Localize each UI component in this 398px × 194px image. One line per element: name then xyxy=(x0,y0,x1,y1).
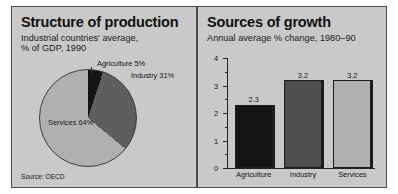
panel-structure-of-production: Structure of production Industrial count… xyxy=(11,6,197,188)
x-category-label: Services xyxy=(338,170,366,179)
panel-sources-of-growth: Sources of growth Annual average % chang… xyxy=(197,6,387,188)
x-category-label: Industry xyxy=(290,170,316,179)
y-tick-label: 4 xyxy=(214,54,218,63)
bar-chart-plot-area: 01234 2.3Agriculture3.2Industry3.2Servic… xyxy=(227,59,375,169)
y-axis xyxy=(227,59,228,169)
y-tick-major: 1 xyxy=(223,141,228,142)
bar-industry: 3.2Industry xyxy=(284,80,322,168)
y-tick-major: 2 xyxy=(223,113,228,114)
x-category-label: Agriculture xyxy=(236,170,271,179)
pie-label-industry: Industry 31% xyxy=(131,71,174,80)
page-title: Structure of production xyxy=(21,14,178,30)
y-tick-label: 2 xyxy=(214,109,218,118)
y-tick-label: 1 xyxy=(214,136,218,145)
y-tick-major: 3 xyxy=(223,86,228,87)
y-tick-minor xyxy=(225,99,228,100)
pie-label-agriculture: Agriculture 5% xyxy=(97,59,145,68)
pie-label-services: Services 64% xyxy=(48,118,93,127)
agriculture-leader-line xyxy=(91,67,92,74)
y-tick-major: 0 xyxy=(223,168,228,169)
y-tick-label: 3 xyxy=(214,81,218,90)
right-subtitle: Annual average % change, 1980–90 xyxy=(207,33,356,44)
bar-agriculture: 2.3Agriculture xyxy=(235,105,273,168)
y-tick-minor xyxy=(225,127,228,128)
bar-value-label: 3.2 xyxy=(347,71,357,80)
y-tick-minor xyxy=(225,72,228,73)
y-tick-major: 4 xyxy=(223,58,228,59)
bar-value-label: 2.3 xyxy=(249,95,259,104)
y-tick-label: 0 xyxy=(214,164,218,173)
y-tick-minor xyxy=(225,154,228,155)
source-note: Source: OECD xyxy=(21,173,65,180)
bar-value-label: 3.2 xyxy=(298,71,308,80)
economist-chart-figure: Structure of production Industrial count… xyxy=(0,0,398,194)
right-panel-title: Sources of growth xyxy=(207,14,331,30)
bar-services: 3.2Services xyxy=(333,80,371,168)
left-subtitle-line-2: % of GDP, 1990 xyxy=(21,43,86,54)
